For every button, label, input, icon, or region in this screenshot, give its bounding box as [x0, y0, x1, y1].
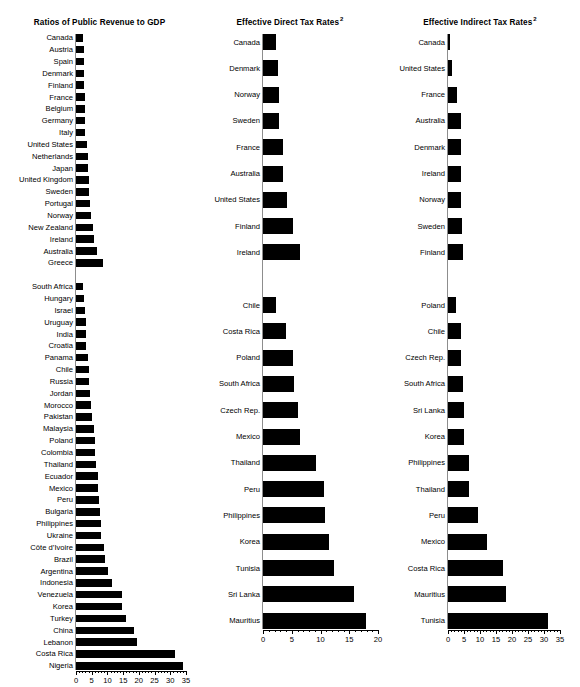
x-axis-minor-tick [461, 630, 462, 632]
bar-row: South Africa [0, 283, 200, 295]
bar [76, 318, 86, 326]
bar [448, 613, 548, 629]
bar-category-label: South Africa [202, 380, 260, 388]
bar [263, 60, 278, 76]
zero-baseline [447, 34, 448, 629]
x-axis-minor-tick [467, 630, 468, 632]
bar [76, 34, 83, 42]
zero-baseline [262, 34, 263, 629]
bar-row: Peru [0, 496, 200, 508]
bar [263, 586, 354, 602]
bar [76, 141, 87, 149]
bar-category-label: Nigeria [2, 662, 73, 670]
chart-title-1-superscript [165, 16, 166, 22]
bar-category-label: Canada [2, 34, 73, 42]
x-axis-minor-tick [161, 671, 162, 673]
x-axis-minor-tick [499, 630, 500, 632]
bar-row: Austria [0, 46, 200, 58]
x-axis-major-tick [528, 630, 529, 634]
bar-row: Ukraine [0, 532, 200, 544]
chart-title-1-text: Ratios of Public Revenue to GDP [34, 18, 165, 27]
bar [76, 532, 101, 540]
bar-row: Sweden [380, 218, 580, 244]
bar-row: Australia [200, 166, 380, 192]
bar-category-label: Finland [202, 223, 260, 231]
x-axis-major-tick [560, 630, 561, 634]
x-axis-minor-tick [515, 630, 516, 632]
bar-row: Malaysia [0, 425, 200, 437]
x-axis-minor-tick [361, 630, 362, 632]
bar-category-label: Denmark [2, 70, 73, 78]
x-axis-minor-tick [286, 630, 287, 632]
x-axis-minor-tick [85, 671, 86, 673]
x-axis-minor-tick [158, 671, 159, 673]
chart-title-2-superscript: 2 [339, 16, 343, 22]
bar [76, 603, 122, 611]
bar-row: Belgium [0, 105, 200, 117]
bar [76, 591, 122, 599]
bar-category-label: Lebanon [2, 639, 73, 647]
x-axis-tick-label: 5 [282, 635, 302, 644]
bar-category-label: Mexico [2, 485, 73, 493]
x-axis: 05101520253035 [448, 630, 562, 646]
bar [76, 200, 90, 208]
x-axis-minor-tick [275, 630, 276, 632]
bar-category-label: Japan [2, 165, 73, 173]
x-axis-minor-tick [180, 671, 181, 673]
x-axis-minor-tick [474, 630, 475, 632]
bar-row: Canada [200, 34, 380, 60]
bar-category-label: United States [2, 141, 73, 149]
x-axis-major-tick [292, 630, 293, 634]
bar [448, 60, 452, 76]
bar-category-label: Pakistan [2, 413, 73, 421]
bar [76, 247, 97, 255]
x-axis-tick-label: 10 [311, 635, 331, 644]
bar [76, 425, 94, 433]
bar-category-label: Chile [202, 302, 260, 310]
x-axis-tick-label: 15 [339, 635, 359, 644]
bar [263, 34, 276, 50]
bar [76, 259, 103, 267]
bar [448, 87, 457, 103]
x-axis-minor-tick [554, 630, 555, 632]
chart-title-2-text: Effective Direct Tax Rates [237, 18, 340, 27]
bar [263, 350, 293, 366]
x-axis-major-tick [480, 630, 481, 634]
x-axis-minor-tick [506, 630, 507, 632]
x-axis-minor-tick [518, 630, 519, 632]
chart-title-3-superscript: 2 [532, 16, 536, 22]
bar [263, 455, 316, 471]
bar-row: Panama [0, 354, 200, 366]
bar [448, 113, 461, 129]
chart-panel-direct-tax: Effective Direct Tax Rates2 CanadaDenmar… [200, 0, 380, 675]
bar-row: Costa Rica [380, 560, 580, 586]
bar-row: Portugal [0, 200, 200, 212]
bar [76, 176, 89, 184]
bar [76, 520, 101, 528]
bar-category-label: Chile [382, 328, 445, 336]
x-axis-minor-tick [547, 630, 548, 632]
bar [263, 560, 334, 576]
bar [76, 81, 84, 89]
bar-row: Norway [380, 192, 580, 218]
x-axis-minor-tick [332, 630, 333, 632]
bar-row: Peru [380, 507, 580, 533]
x-axis-minor-tick [531, 630, 532, 632]
x-axis-major-tick [464, 630, 465, 634]
x-axis-minor-tick [470, 630, 471, 632]
x-axis-major-tick [496, 630, 497, 634]
x-axis-major-tick [378, 630, 379, 634]
bar-row: Brazil [0, 555, 200, 567]
bar-category-label: Thailand [2, 461, 73, 469]
bar [263, 402, 298, 418]
bar-row: Finland [0, 81, 200, 93]
bar-row: Thailand [200, 455, 380, 481]
bar [448, 297, 456, 313]
x-axis-tick-label: 35 [176, 676, 196, 685]
bar [263, 507, 325, 523]
bar-category-label: Australia [2, 248, 73, 256]
bar-category-label: Israel [2, 307, 73, 315]
bar-category-label: Uruguay [2, 319, 73, 327]
bar [448, 402, 464, 418]
bar [448, 34, 450, 50]
